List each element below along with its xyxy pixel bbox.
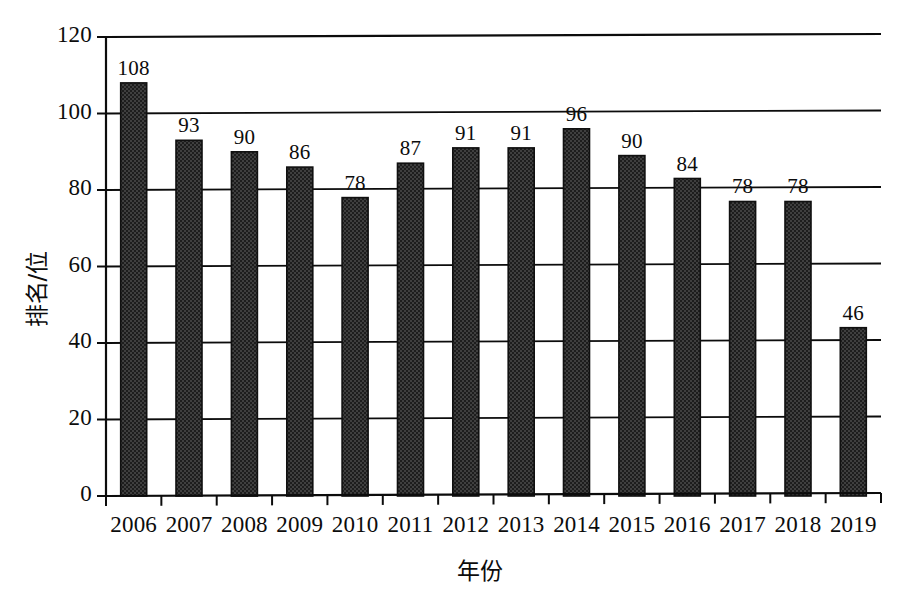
- bar: [840, 328, 866, 496]
- bar-value-label: 78: [768, 174, 828, 199]
- x-axis-title: 年份: [420, 552, 540, 586]
- gridline: [106, 340, 881, 343]
- y-tick-label: 100: [0, 99, 92, 125]
- bar: [619, 156, 645, 496]
- gridline: [106, 34, 881, 37]
- x-tick-label: 2019: [819, 512, 887, 538]
- y-tick-label: 0: [0, 481, 92, 507]
- bar-value-label: 46: [823, 301, 883, 326]
- bar-value-label: 84: [657, 152, 717, 177]
- bar: [398, 163, 424, 496]
- axis-ticks: [97, 37, 881, 506]
- gridline: [106, 111, 881, 114]
- bar: [564, 129, 590, 496]
- y-tick-label: 80: [0, 175, 92, 201]
- bar-value-label: 93: [159, 113, 219, 138]
- bar-value-label: 86: [270, 140, 330, 165]
- bar-value-label: 91: [491, 121, 551, 146]
- gridline: [106, 417, 881, 420]
- bar: [674, 179, 700, 497]
- bar: [785, 202, 811, 497]
- bar-value-label: 87: [380, 136, 440, 161]
- y-tick-label: 20: [0, 405, 92, 431]
- bar: [287, 167, 313, 496]
- bar-chart: 020406080100120 200620072008200920102011…: [0, 0, 897, 598]
- bar-value-label: 108: [104, 56, 164, 81]
- bar: [342, 198, 368, 496]
- bar-value-label: 78: [325, 171, 385, 196]
- bar-value-label: 91: [436, 121, 496, 146]
- y-tick-label: 120: [0, 22, 92, 48]
- bar: [508, 148, 534, 496]
- bar: [176, 140, 202, 496]
- bar: [231, 152, 257, 496]
- bar: [121, 83, 147, 496]
- chart-canvas: [0, 0, 897, 598]
- y-axis-title: 排名/位: [18, 234, 52, 344]
- gridlines: [106, 34, 881, 420]
- bar-value-label: 90: [214, 125, 274, 150]
- bar-value-label: 96: [547, 102, 607, 127]
- bar: [453, 148, 479, 496]
- bar: [730, 202, 756, 497]
- bar-value-label: 78: [713, 174, 773, 199]
- bar-value-label: 90: [602, 129, 662, 154]
- gridline: [106, 264, 881, 267]
